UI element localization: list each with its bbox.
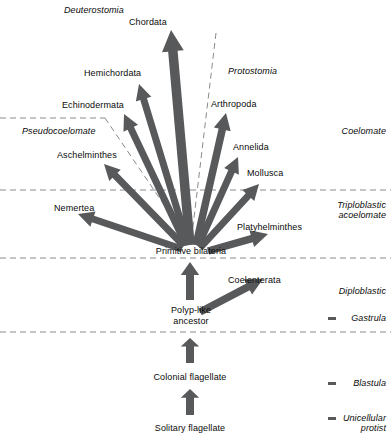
grade-label-diploblastic: Diploblastic <box>298 286 386 296</box>
arrow-colonial-to-polyp <box>181 338 199 363</box>
taxon-label-platyhelminthes: Platyhelminthes <box>237 222 302 232</box>
grade-label-triploblastic-acoelomate: Triploblasticacoelomate <box>298 200 386 220</box>
taxon-label-chordata: Chordata <box>129 17 167 27</box>
region-label-protostomia: Protostomia <box>228 66 277 76</box>
taxon-label-aschelminthes: Aschelminthes <box>57 150 117 160</box>
grade-label-gastrula: Gastrula <box>298 313 386 323</box>
arrow-solitary-to-colonial <box>181 389 199 415</box>
arrow-polyp-to-bilateria <box>181 262 199 300</box>
ancestor-label-solitary-flagellate: Solitary flagellate <box>140 423 240 434</box>
ancestor-label-primitive-bilateria: Primitive bilateria <box>146 246 236 257</box>
dash-marker-unicellular-protist-icon <box>328 417 336 420</box>
grade-label-unicellular-protist: Unicellularprotist <box>298 413 386 433</box>
ancestor-label-polyp-like-ancestor: Polyp-likeancestor <box>158 305 224 327</box>
phylogeny-diagram: ChordataHemichordataEchinodermataAschelm… <box>0 0 391 441</box>
grade-label-coelomate: Coelomate <box>298 126 386 136</box>
taxon-label-arthropoda: Arthropoda <box>211 99 257 109</box>
region-label-deuterostomia: Deuterostomia <box>64 5 124 15</box>
taxon-label-annelida: Annelida <box>233 142 269 152</box>
taxon-label-coelenterata: Coelenterata <box>228 275 281 285</box>
taxon-label-mollusca: Mollusca <box>247 168 283 178</box>
ancestor-label-colonial-flagellate: Colonial flagellate <box>140 372 240 383</box>
region-label-pseudocoelomate: Pseudocoelomate <box>22 126 96 136</box>
grade-label-blastula: Blastula <box>298 378 386 388</box>
taxon-label-nemertea: Nemertea <box>54 203 94 213</box>
taxon-label-hemichordata: Hemichordata <box>84 68 141 78</box>
dash-marker-blastula-icon <box>328 382 336 385</box>
taxon-label-echinodermata: Echinodermata <box>62 100 124 110</box>
dash-marker-gastrula-icon <box>328 317 336 320</box>
